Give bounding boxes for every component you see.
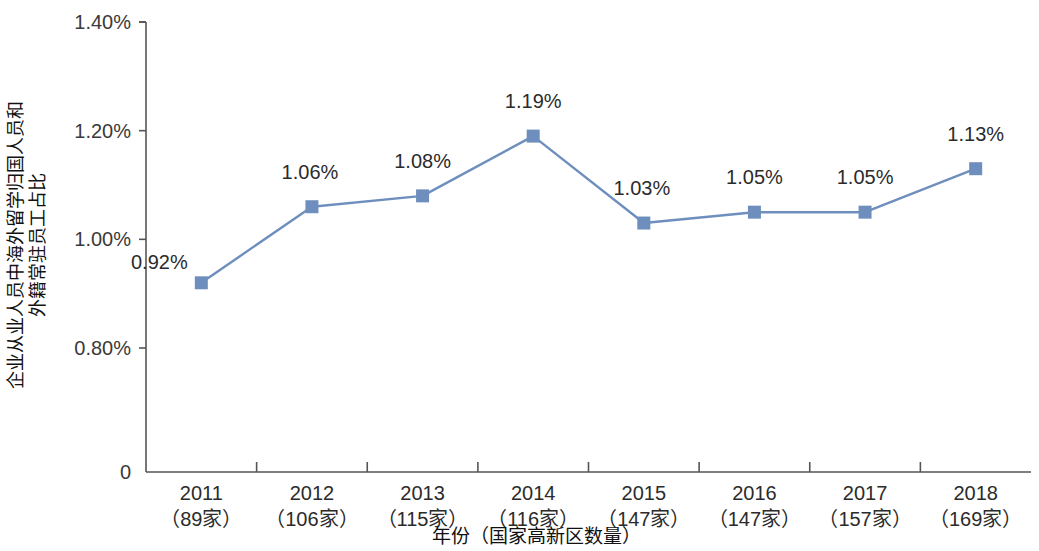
x-axis-category-labels: 2011（89家）2012（106家）2013（115家）2014（116家）2… (160, 482, 1022, 530)
x-axis-year-label: 2018 (953, 482, 998, 504)
data-point-marker (859, 206, 872, 219)
x-axis-count-label: （157家） (818, 508, 911, 530)
x-axis-year-label: 2013 (400, 482, 445, 504)
y-axis-title-line-2: 外籍常驻员工占比 (28, 173, 48, 317)
data-point-label: 1.03% (613, 177, 670, 199)
y-axis-tick-label: 1.00% (74, 228, 131, 250)
y-axis-title-line-1: 企业从业人员中海外留学归国人员和 (6, 101, 26, 389)
data-point-marker (969, 162, 982, 175)
x-axis-count-label: （106家） (265, 508, 358, 530)
series-markers (195, 130, 982, 290)
series-value-labels: 0.92%1.06%1.08%1.19%1.03%1.05%1.05%1.13% (131, 90, 1004, 273)
line-chart: 00.80%1.00%1.20%1.40% 0.92%1.06%1.08%1.1… (0, 0, 1039, 551)
data-point-label: 1.19% (505, 90, 562, 112)
data-point-marker (305, 200, 318, 213)
x-axis-year-label: 2012 (290, 482, 335, 504)
x-axis-count-label: （169家） (929, 508, 1022, 530)
x-axis-title: 年份（国家高新区数量） (432, 526, 641, 547)
data-point-marker (637, 217, 650, 230)
x-axis-year-label: 2014 (511, 482, 556, 504)
y-axis-ticks (139, 22, 146, 348)
x-axis-year-label: 2017 (843, 482, 888, 504)
x-axis-count-label: （89家） (160, 508, 242, 530)
data-point-marker (748, 206, 761, 219)
data-point-label: 1.13% (947, 123, 1004, 145)
y-axis-tick-labels: 00.80%1.00%1.20%1.40% (74, 11, 131, 483)
data-point-label: 0.92% (131, 251, 188, 273)
x-axis-year-label: 2015 (622, 482, 667, 504)
y-axis-tick-label: 1.40% (74, 11, 131, 33)
data-point-marker (527, 130, 540, 143)
x-axis-count-label: （147家） (708, 508, 801, 530)
y-axis-tick-label: 0 (120, 461, 131, 483)
y-axis-tick-label: 1.20% (74, 120, 131, 142)
x-axis-ticks (257, 462, 921, 472)
data-point-label: 1.08% (394, 150, 451, 172)
y-axis-tick-label: 0.80% (74, 337, 131, 359)
data-point-label: 1.05% (837, 166, 894, 188)
x-axis-year-label: 2011 (180, 482, 223, 504)
data-point-label: 1.05% (726, 166, 783, 188)
data-point-label: 1.06% (282, 161, 339, 183)
x-axis-year-label: 2016 (732, 482, 777, 504)
data-point-marker (416, 189, 429, 202)
data-point-marker (195, 276, 208, 289)
chart-canvas: 00.80%1.00%1.20%1.40% 0.92%1.06%1.08%1.1… (0, 0, 1039, 551)
